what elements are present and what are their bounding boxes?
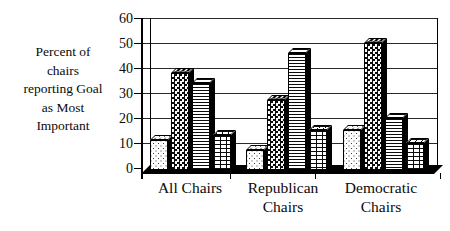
- bar-front: [288, 53, 306, 171]
- y-tick-label: 60: [95, 10, 133, 27]
- bar-front: [343, 130, 361, 170]
- y-tick-label: 50: [95, 35, 133, 52]
- y-tick: [134, 168, 141, 169]
- bar-democratic-chairs-horizontal-lines-pattern-bar: [385, 113, 408, 171]
- y-tick-label: 20: [95, 110, 133, 127]
- y-tick: [134, 43, 141, 44]
- bar-democratic-chairs-brick-pattern-bar: [406, 138, 429, 171]
- bar-all-chairs-dotted-pattern-bar: [150, 135, 173, 170]
- bar-front: [309, 130, 327, 170]
- bar-side-face: [231, 130, 236, 170]
- chart-region: Percent of chairs reporting Goal as Most…: [0, 0, 450, 231]
- y-tick: [134, 118, 141, 119]
- category-label-democratic-chairs: Democratic Chairs: [316, 178, 446, 216]
- plot-area: 0102030405060All ChairsRepublican Chairs…: [0, 0, 450, 231]
- y-tick: [134, 143, 141, 144]
- y-tick-label: 10: [95, 135, 133, 152]
- bar-front: [406, 143, 424, 171]
- bar-front: [150, 140, 168, 170]
- bar-front: [192, 83, 210, 171]
- bar-republican-chairs-horizontal-lines-pattern-bar: [288, 48, 311, 171]
- x-tick: [230, 173, 231, 179]
- bar-front: [385, 118, 403, 171]
- bar-republican-chairs-dotted-pattern-bar: [246, 145, 269, 170]
- y-tick-label: 0: [95, 160, 133, 177]
- wall-right-edge: [437, 18, 438, 165]
- bar-republican-chairs-checkerboard-pattern-bar: [267, 95, 290, 170]
- bar-front: [246, 150, 264, 170]
- bar-side-face: [424, 138, 429, 171]
- bar-front: [171, 73, 189, 171]
- bar-all-chairs-horizontal-lines-pattern-bar: [192, 78, 215, 171]
- x-tick: [315, 173, 316, 179]
- x-tick: [440, 173, 441, 179]
- y-tick: [134, 18, 141, 19]
- y-tick: [134, 93, 141, 94]
- y-tick: [134, 68, 141, 69]
- gridline: [141, 18, 437, 19]
- y-tick-label: 30: [95, 85, 133, 102]
- y-axis-line: [141, 18, 143, 179]
- bar-republican-chairs-brick-pattern-bar: [309, 125, 332, 170]
- bar-all-chairs-brick-pattern-bar: [213, 130, 236, 170]
- gridline: [141, 43, 437, 44]
- bar-democratic-chairs-checkerboard-pattern-bar: [364, 38, 387, 171]
- bar-front: [267, 100, 285, 170]
- bar-side-face: [327, 125, 332, 170]
- y-tick-label: 40: [95, 60, 133, 77]
- bar-front: [213, 135, 231, 170]
- bar-front: [364, 43, 382, 171]
- bar-democratic-chairs-dotted-pattern-bar: [343, 125, 366, 170]
